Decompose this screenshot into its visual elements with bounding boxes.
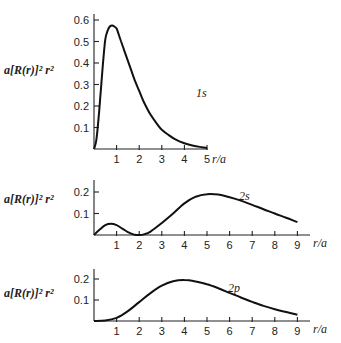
x-tick-label: 5 xyxy=(204,153,210,165)
x-tick-label: 9 xyxy=(294,325,300,337)
x-tick-label: 8 xyxy=(272,239,278,251)
y-tick-label: 0.6 xyxy=(74,14,89,26)
chart-2s: a[R(r)]² r² 2s r/a 1234567890.10.2 xyxy=(4,180,327,251)
x-tick-label: 3 xyxy=(159,153,165,165)
x-tick-label: 6 xyxy=(227,325,233,337)
x-tick-label: 2 xyxy=(136,325,142,337)
y-tick-label: 0.4 xyxy=(74,57,89,69)
y-tick-label: 0.2 xyxy=(74,100,89,112)
x-axis-label: r/a xyxy=(313,236,327,250)
x-axis-label: r/a xyxy=(212,152,226,166)
y-tick-label: 0.2 xyxy=(74,186,89,198)
curve-2p xyxy=(94,280,297,321)
x-tick-label: 5 xyxy=(204,239,210,251)
x-tick-label: 3 xyxy=(159,239,165,251)
x-tick-label: 4 xyxy=(181,239,187,251)
x-tick-label: 3 xyxy=(159,325,165,337)
x-tick-label: 7 xyxy=(249,325,255,337)
x-tick-label: 4 xyxy=(181,153,187,165)
x-tick-label: 8 xyxy=(272,325,278,337)
x-tick-label: 2 xyxy=(136,239,142,251)
radial-probability-figure: a[R(r)]² r² 1s r/a 123450.10.20.30.40.50… xyxy=(0,0,341,343)
y-tick-label: 0.5 xyxy=(74,36,89,48)
y-tick-label: 0.1 xyxy=(74,122,89,134)
y-tick-label: 0.1 xyxy=(74,208,89,220)
y-axis-label: a[R(r)]² r² xyxy=(4,63,54,77)
x-tick-label: 1 xyxy=(114,153,120,165)
chart-1s: a[R(r)]² r² 1s r/a 123450.10.20.30.40.50… xyxy=(4,14,226,166)
curve-2s xyxy=(94,194,297,235)
y-tick-label: 0.1 xyxy=(74,294,89,306)
x-tick-label: 5 xyxy=(204,325,210,337)
x-tick-label: 1 xyxy=(114,325,120,337)
curve-label-1s: 1s xyxy=(196,86,207,100)
x-tick-label: 4 xyxy=(181,325,187,337)
x-axis-label: r/a xyxy=(313,322,327,336)
x-tick-label: 1 xyxy=(114,239,120,251)
y-axis-label: a[R(r)]² r² xyxy=(4,192,54,206)
x-tick-label: 2 xyxy=(136,153,142,165)
y-tick-label: 0.2 xyxy=(74,273,89,285)
y-axis-label: a[R(r)]² r² xyxy=(4,286,54,300)
x-tick-label: 9 xyxy=(294,239,300,251)
y-tick-label: 0.3 xyxy=(74,79,89,91)
x-tick-label: 7 xyxy=(249,239,255,251)
x-tick-label: 6 xyxy=(227,239,233,251)
chart-2p: a[R(r)]² r² 2p r/a 1234567890.10.2 xyxy=(4,269,327,337)
curve-1s xyxy=(94,25,207,149)
